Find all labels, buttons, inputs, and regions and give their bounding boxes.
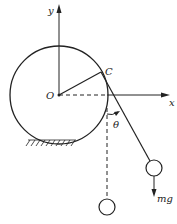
contact-point-label: C [105, 66, 113, 77]
y-axis-label: y [47, 5, 54, 16]
radius-oc [59, 72, 101, 95]
initial-bob [99, 199, 115, 215]
x-axis-label: x [169, 97, 175, 108]
pendulum-cylinder-diagram: y x O C mg θ [0, 0, 177, 224]
origin-label: O [46, 90, 54, 101]
y-axis-arrow-icon [57, 4, 62, 13]
angle-label: θ [113, 119, 119, 130]
angle-arrow-icon [114, 111, 120, 116]
pendulum-string [101, 72, 150, 161]
weight-label: mg [157, 193, 173, 204]
weight-arrow-head-icon [152, 189, 157, 197]
pendulum-bob [146, 160, 162, 176]
